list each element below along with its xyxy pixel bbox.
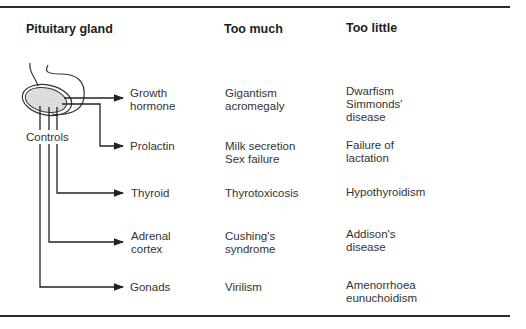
too-much-gonads: Virilism <box>225 281 262 294</box>
too-much-prolactin: Milk secretion Sex failure <box>225 140 295 166</box>
hormone-growth-hormone: Growth hormone <box>130 87 175 113</box>
too-little-gonads: Amenorrhoea eunuchoidism <box>346 279 417 305</box>
too-much-adrenal-cortex: Cushing's syndrome <box>225 230 276 256</box>
controls-label: Controls <box>26 131 69 144</box>
arrow-thyroid <box>57 144 123 193</box>
too-much-growth-hormone: Gigantism acromegaly <box>225 87 284 113</box>
hormone-prolactin: Prolactin <box>130 140 175 153</box>
too-little-growth-hormone: Dwarfism Simmonds' disease <box>346 85 403 124</box>
too-little-thyroid: Hypothyroidism <box>346 186 425 199</box>
too-little-prolactin: Failure of lactation <box>346 139 394 165</box>
hormone-gonads: Gonads <box>130 281 170 294</box>
hormone-thyroid: Thyroid <box>131 187 169 200</box>
arrow-prolactin <box>62 104 123 146</box>
too-much-thyroid: Thyrotoxicosis <box>225 187 299 200</box>
too-little-adrenal-cortex: Addison's disease <box>346 228 396 254</box>
hormone-adrenal-cortex: Adrenal cortex <box>131 230 171 256</box>
arrow-gonads <box>40 144 123 287</box>
gland-icon <box>19 63 84 120</box>
